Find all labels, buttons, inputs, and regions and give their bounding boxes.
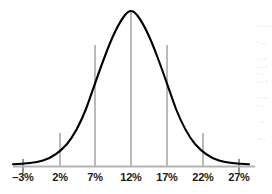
margin-text-line: • —– <box>257 39 272 47</box>
tick-label-12-percent: 12% <box>120 171 141 183</box>
normal-distribution-chart <box>0 0 272 194</box>
adjacent-page-text-fragment: ——— • —– — •– –— • •— – —– • – —• •—– —•… <box>257 22 272 190</box>
margin-text-line: —• – <box>257 118 272 126</box>
margin-text-line: – —• <box>257 94 272 102</box>
bell-curve-figure: –3% 2% 7% 12% 17% 22% 27% ——— • —– — •– … <box>0 0 272 194</box>
tick-label-7-percent: 7% <box>87 171 103 183</box>
tick-label-27-percent: 27% <box>228 171 249 183</box>
margin-text-line: ——— <box>257 22 272 30</box>
margin-text-line: –— • <box>257 63 272 71</box>
gridlines <box>60 11 203 166</box>
margin-text-line: •—– <box>257 102 272 110</box>
margin-text-line: –•— <box>257 135 272 143</box>
tick-label-2-percent: 2% <box>52 171 68 183</box>
tick-label-minus-3-percent: –3% <box>12 171 33 183</box>
margin-text-line: — •– <box>257 55 272 63</box>
margin-text-line: •— – <box>257 70 272 78</box>
tick-label-17-percent: 17% <box>156 171 177 183</box>
margin-text-line: —– • <box>257 78 272 86</box>
tick-label-22-percent: 22% <box>192 171 213 183</box>
